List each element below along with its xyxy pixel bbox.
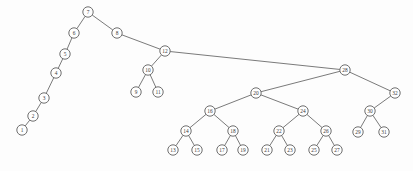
tree-node-14[interactable]: 14 <box>181 126 191 136</box>
tree-node-21[interactable]: 21 <box>262 145 272 155</box>
node-label-6: 6 <box>73 30 76 36</box>
tree-edge-10-11 <box>150 75 156 88</box>
tree-node-16[interactable]: 16 <box>205 106 215 116</box>
tree-edge-26-27 <box>329 136 335 146</box>
tree-node-9[interactable]: 9 <box>131 87 141 97</box>
tree-edge-24-22 <box>283 114 299 127</box>
tree-edge-26-25 <box>317 135 323 145</box>
node-label-8: 8 <box>116 30 119 36</box>
node-label-25: 25 <box>311 147 317 153</box>
tree-canvas: 1234567891011121314151617181920212223242… <box>0 0 413 171</box>
tree-node-1[interactable]: 1 <box>17 125 27 135</box>
node-label-14: 14 <box>183 128 189 134</box>
node-layer: 1234567891011121314151617181920212223242… <box>17 7 400 155</box>
tree-node-8[interactable]: 8 <box>112 28 122 38</box>
tree-edge-2-1 <box>25 120 30 126</box>
tree-edge-12-28 <box>170 52 340 70</box>
node-label-15: 15 <box>194 147 200 153</box>
node-label-2: 2 <box>32 113 35 119</box>
tree-edge-7-6 <box>77 16 85 28</box>
tree-node-24[interactable]: 24 <box>298 106 308 116</box>
tree-edge-8-12 <box>122 35 160 49</box>
node-label-5: 5 <box>64 51 67 57</box>
tree-edge-14-15 <box>189 136 195 146</box>
tree-node-31[interactable]: 31 <box>379 127 389 137</box>
tree-node-27[interactable]: 27 <box>332 145 342 155</box>
tree-node-12[interactable]: 12 <box>160 46 170 56</box>
tree-edge-16-18 <box>214 114 229 127</box>
tree-node-26[interactable]: 26 <box>321 126 331 136</box>
tree-node-10[interactable]: 10 <box>143 65 153 75</box>
tree-node-32[interactable]: 32 <box>390 88 400 98</box>
tree-edge-3-2 <box>36 102 42 111</box>
tree-edge-18-19 <box>235 136 240 146</box>
tree-edge-10-9 <box>138 75 145 88</box>
node-label-7: 7 <box>87 9 90 15</box>
tree-edge-22-23 <box>282 136 288 146</box>
node-label-21: 21 <box>264 147 270 153</box>
tree-node-29[interactable]: 29 <box>353 127 363 137</box>
node-label-9: 9 <box>135 89 138 95</box>
tree-node-2[interactable]: 2 <box>28 111 38 121</box>
tree-edge-14-13 <box>176 135 183 145</box>
tree-node-5[interactable]: 5 <box>60 49 70 59</box>
edge-layer <box>25 15 391 146</box>
node-label-27: 27 <box>334 147 340 153</box>
tree-edge-32-30 <box>374 96 391 108</box>
node-label-24: 24 <box>300 108 306 114</box>
tree-edge-5-4 <box>58 59 63 69</box>
tree-node-22[interactable]: 22 <box>274 126 284 136</box>
tree-node-6[interactable]: 6 <box>69 28 79 38</box>
tree-node-4[interactable]: 4 <box>51 68 61 78</box>
node-label-28: 28 <box>342 67 348 73</box>
tree-edge-12-10 <box>151 55 161 66</box>
tree-edge-18-17 <box>225 136 231 146</box>
tree-edge-30-29 <box>361 116 368 128</box>
node-label-19: 19 <box>240 147 246 153</box>
node-label-1: 1 <box>21 127 24 133</box>
tree-node-30[interactable]: 30 <box>365 106 375 116</box>
tree-node-17[interactable]: 17 <box>217 145 227 155</box>
node-label-17: 17 <box>219 147 225 153</box>
node-label-22: 22 <box>276 128 282 134</box>
tree-node-15[interactable]: 15 <box>192 145 202 155</box>
tree-node-7[interactable]: 7 <box>83 7 93 17</box>
node-label-23: 23 <box>287 147 293 153</box>
node-label-32: 32 <box>392 90 398 96</box>
tree-edge-20-16 <box>215 95 251 109</box>
tree-node-25[interactable]: 25 <box>309 145 319 155</box>
tree-node-23[interactable]: 23 <box>285 145 295 155</box>
tree-node-13[interactable]: 13 <box>168 145 178 155</box>
tree-edge-7-8 <box>92 15 113 30</box>
node-label-3: 3 <box>43 95 46 101</box>
node-label-30: 30 <box>367 108 373 114</box>
tree-node-3[interactable]: 3 <box>39 93 49 103</box>
tree-edge-6-5 <box>67 38 72 49</box>
node-label-11: 11 <box>155 89 160 95</box>
tree-edge-22-21 <box>270 135 276 145</box>
node-label-13: 13 <box>170 147 176 153</box>
tree-edge-30-31 <box>373 115 381 127</box>
node-label-20: 20 <box>253 90 259 96</box>
tree-edge-28-20 <box>261 71 340 91</box>
tree-edge-4-3 <box>46 78 54 94</box>
node-label-16: 16 <box>207 108 213 114</box>
node-label-12: 12 <box>162 48 168 54</box>
tree-node-28[interactable]: 28 <box>340 65 350 75</box>
tree-edge-16-14 <box>190 114 206 127</box>
tree-edge-20-24 <box>261 95 298 109</box>
tree-node-20[interactable]: 20 <box>251 88 261 98</box>
tree-node-18[interactable]: 18 <box>228 126 238 136</box>
binary-search-tree-figure: 1234567891011121314151617181920212223242… <box>0 0 413 171</box>
node-label-31: 31 <box>381 129 387 135</box>
node-label-4: 4 <box>55 70 58 76</box>
tree-node-19[interactable]: 19 <box>238 145 248 155</box>
tree-edge-24-26 <box>307 114 322 127</box>
tree-edge-28-32 <box>350 72 391 91</box>
node-label-18: 18 <box>230 128 236 134</box>
node-label-29: 29 <box>355 129 361 135</box>
node-label-26: 26 <box>323 128 329 134</box>
tree-node-11[interactable]: 11 <box>153 87 163 97</box>
node-label-10: 10 <box>145 67 151 73</box>
